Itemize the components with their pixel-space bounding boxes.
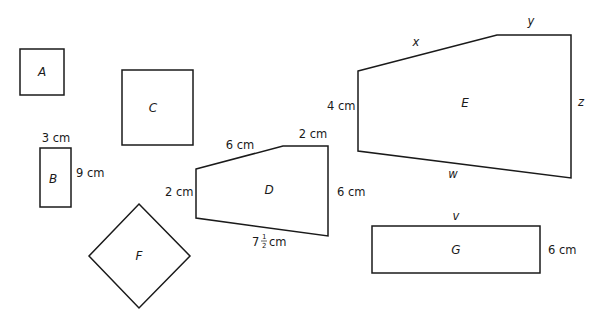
shape-b-width-label: 3 cm (42, 131, 71, 145)
shape-d-right-label: 6 cm (337, 185, 366, 199)
shape-d-slant-label: 6 cm (226, 138, 255, 152)
shape-c: C (122, 70, 193, 145)
shape-a-label: A (37, 65, 46, 79)
shape-b: B 3 cm 9 cm (40, 131, 105, 207)
shape-d-bottom-label: 7 1 2 cm (252, 233, 287, 250)
shape-e-z-label: z (577, 95, 585, 109)
shape-c-label: C (149, 101, 158, 115)
shape-f: F (89, 204, 190, 308)
shape-e: E 4 cm x y z w (327, 14, 585, 181)
shape-a: A (20, 49, 64, 95)
shape-g-right-label: 6 cm (548, 243, 577, 257)
shape-c-outline (122, 70, 193, 145)
shape-f-label: F (136, 249, 144, 263)
shape-e-x-label: x (412, 35, 420, 49)
shape-g: G v 6 cm (372, 209, 577, 273)
shape-d-bottom-numerator: 1 (262, 233, 266, 241)
shape-d-bottom-denominator: 2 (262, 242, 266, 250)
shape-d: D 2 cm 6 cm 2 cm 6 cm 7 1 2 cm (165, 127, 366, 250)
shapes-diagram: A C B 3 cm 9 cm F D 2 cm 6 cm 2 cm 6 cm … (0, 0, 600, 321)
shape-d-outline (196, 146, 328, 236)
shape-b-label: B (49, 172, 57, 186)
shape-d-left-label: 2 cm (165, 185, 194, 199)
shape-g-v-label: v (453, 209, 460, 223)
shape-b-height-label: 9 cm (76, 166, 105, 180)
shape-g-label: G (451, 243, 460, 257)
shape-d-label: D (264, 183, 273, 197)
shape-e-w-label: w (448, 167, 458, 181)
shape-e-left-label: 4 cm (327, 99, 356, 113)
shape-d-bottom-unit: cm (269, 235, 287, 249)
shape-e-y-label: y (527, 14, 535, 28)
shape-e-label: E (461, 96, 469, 110)
shape-d-bottom-whole: 7 (252, 235, 259, 249)
shape-d-top-label: 2 cm (299, 127, 328, 141)
